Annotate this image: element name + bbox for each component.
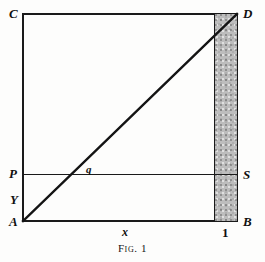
axis-label-one: 1 — [222, 226, 229, 239]
vertex-label-c: C — [9, 7, 18, 20]
figure-caption-number: 1 — [141, 242, 147, 254]
shaded-strip-region — [214, 14, 237, 221]
annotation-label-q: q — [86, 164, 92, 175]
vertex-label-p: P — [9, 167, 17, 180]
figure-container: C D P S Y A B q x 1 Fig. 1 — [0, 0, 265, 262]
figure-caption-prefix: Fig. — [118, 242, 138, 254]
vertex-label-d: D — [243, 7, 252, 20]
square-frame-acdb — [22, 13, 238, 222]
vertex-label-s: S — [243, 168, 250, 181]
figure-caption: Fig. 1 — [0, 242, 265, 254]
annotation-label-y: Y — [10, 193, 18, 206]
vertex-label-b: B — [243, 215, 252, 228]
vertex-label-a: A — [9, 215, 18, 228]
axis-label-x: x — [122, 226, 128, 238]
horizontal-line-ps — [22, 174, 238, 175]
